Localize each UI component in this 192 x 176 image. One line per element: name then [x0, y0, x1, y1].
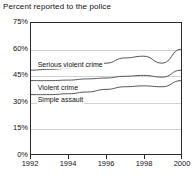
y-tick-label: 0%: [1, 151, 28, 159]
x-tick-label: 1992: [22, 160, 39, 168]
x-tick-label: 1998: [136, 160, 153, 168]
y-tick-label: 75%: [1, 18, 28, 26]
chart-container: Percent reported to the police 0%15%30%4…: [0, 0, 192, 176]
series-label: Violent crime: [37, 84, 79, 92]
series-labels: Serious violent crimeViolent crimeSimple…: [31, 23, 181, 154]
y-tick-label: 45%: [1, 71, 28, 79]
y-axis: 0%15%30%45%60%75%: [0, 0, 28, 176]
x-axis: 19921994199619982000: [30, 155, 182, 176]
y-tick-label: 30%: [1, 98, 28, 106]
x-tick-label: 2000: [174, 160, 191, 168]
y-tick-label: 60%: [1, 45, 28, 53]
x-tick-label: 1996: [98, 160, 115, 168]
series-label: Simple assault: [37, 96, 85, 104]
series-label: Serious violent crime: [37, 61, 104, 69]
y-tick-label: 15%: [1, 124, 28, 132]
x-tick-label: 1994: [60, 160, 77, 168]
plot-area: Serious violent crimeViolent crimeSimple…: [30, 22, 182, 155]
